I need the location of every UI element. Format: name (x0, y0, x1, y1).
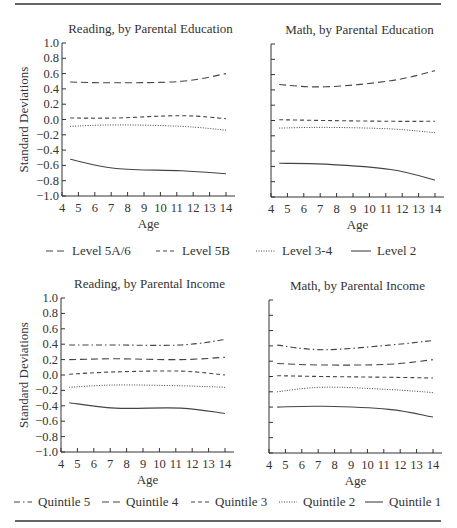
series-line-quintile-4 (277, 360, 433, 365)
y-tick-label: 0.2 (43, 97, 59, 111)
legend-label: Quintile 2 (303, 494, 355, 509)
legend-label: Level 5B (182, 243, 230, 258)
chart-title: Reading, by Parental Education (68, 21, 233, 36)
y-tick-label: 0.2 (42, 353, 58, 367)
x-tick-label: 9 (350, 202, 356, 216)
series-line-level-3-4 (279, 127, 435, 132)
y-tick-label: −0.6 (35, 414, 58, 428)
y-tick-label: −0.2 (36, 128, 59, 142)
y-tick-label: −0.4 (35, 399, 58, 413)
y-tick-label: −0.8 (36, 174, 59, 188)
x-tick-label: 9 (348, 458, 354, 472)
x-tick-label: 11 (170, 457, 182, 471)
x-tick-label: 14 (429, 202, 442, 216)
y-tick-label: 1.0 (43, 36, 59, 50)
x-axis-label: Age (345, 473, 367, 488)
legend-label: Level 2 (377, 243, 416, 258)
legend-label: Quintile 1 (389, 494, 441, 509)
x-tick-label: 6 (92, 201, 98, 215)
x-tick-label: 12 (394, 458, 407, 472)
x-tick-label: 8 (124, 201, 130, 215)
x-tick-label: 13 (202, 457, 215, 471)
y-tick-label: 0.6 (42, 322, 58, 336)
x-tick-label: 14 (427, 458, 440, 472)
y-tick-label: 0.8 (43, 51, 59, 65)
chart-title: Reading, by Parental Income (74, 276, 225, 291)
y-tick-label: 0.0 (42, 368, 58, 382)
x-tick-label: 11 (171, 201, 183, 215)
y-tick-label: 0.6 (43, 67, 59, 81)
x-tick-label: 5 (284, 202, 290, 216)
y-tick-label: 0.4 (43, 82, 59, 96)
legend-label: Level 5A/6 (72, 243, 131, 258)
x-tick-label: 7 (107, 457, 113, 471)
x-tick-label: 5 (74, 457, 80, 471)
y-tick-label: −1.0 (36, 189, 59, 203)
x-tick-label: 8 (333, 202, 339, 216)
x-tick-label: 14 (220, 201, 233, 215)
x-tick-label: 6 (91, 457, 97, 471)
chart-title: Math, by Parental Education (285, 22, 434, 37)
y-tick-label: −0.2 (35, 383, 58, 397)
x-tick-label: 6 (299, 458, 305, 472)
y-axis-label: Standard Deviations (16, 322, 31, 428)
x-axis-label: Age (138, 216, 160, 231)
x-tick-label: 14 (219, 457, 232, 471)
x-tick-label: 13 (410, 458, 423, 472)
panel-math-education: Math, by Parental Education4567891011121… (268, 22, 444, 232)
x-tick-label: 8 (123, 457, 129, 471)
series-line-level-5a-6 (70, 74, 226, 83)
legend-income: Quintile 5Quintile 4Quintile 3Quintile 2… (14, 494, 441, 509)
y-tick-label: 0.0 (43, 113, 59, 127)
y-tick-label: −0.6 (36, 158, 59, 172)
y-tick-label: −1.0 (35, 445, 58, 459)
x-tick-label: 7 (108, 201, 114, 215)
y-tick-label: −0.4 (36, 143, 59, 157)
legend-label: Quintile 5 (38, 494, 90, 509)
x-tick-label: 7 (317, 202, 323, 216)
series-line-quintile-2 (69, 385, 225, 387)
y-axis-label: Standard Deviations (16, 67, 31, 173)
x-axis-label: Age (347, 217, 369, 232)
series-line-quintile-3 (69, 371, 225, 375)
series-line-quintile-3 (277, 376, 433, 378)
series-line-level-5b (279, 120, 435, 122)
legend-label: Level 3-4 (282, 243, 333, 258)
series-line-quintile-5 (69, 340, 225, 346)
x-tick-label: 12 (187, 201, 200, 215)
x-tick-label: 4 (268, 202, 275, 216)
legend-label: Quintile 3 (215, 494, 267, 509)
y-tick-label: 0.8 (42, 306, 58, 320)
x-tick-label: 7 (315, 458, 321, 472)
y-tick-label: −0.8 (35, 430, 58, 444)
series-line-level-2 (70, 159, 226, 174)
y-tick-label: 0.4 (42, 337, 58, 351)
figure: Reading, by Parental Education1.00.80.60… (0, 0, 457, 528)
x-tick-label: 10 (153, 457, 166, 471)
legend-education: Level 5A/6Level 5BLevel 3-4Level 2 (46, 243, 416, 258)
x-tick-label: 10 (361, 458, 374, 472)
panel-reading-education: Reading, by Parental Education1.00.80.60… (16, 21, 235, 231)
series-line-level-2 (279, 163, 435, 180)
panel-math-income: Math, by Parental Income4567891011121314… (266, 278, 442, 488)
series-line-level-5b (70, 116, 226, 119)
x-tick-label: 11 (380, 202, 392, 216)
x-tick-label: 9 (140, 457, 146, 471)
series-line-quintile-1 (277, 406, 433, 417)
series-line-quintile-1 (69, 403, 225, 414)
x-tick-label: 5 (282, 458, 288, 472)
y-tick-label: 1.0 (42, 291, 58, 305)
series-line-level-5a-6 (279, 71, 435, 87)
series-line-quintile-2 (277, 387, 433, 392)
x-tick-label: 13 (412, 202, 425, 216)
x-tick-label: 9 (141, 201, 147, 215)
x-tick-label: 4 (59, 201, 66, 215)
legend-label: Quintile 4 (126, 494, 179, 509)
series-line-quintile-5 (277, 341, 433, 350)
x-axis-label: Age (137, 472, 159, 487)
x-tick-label: 10 (154, 201, 167, 215)
panel-reading-income: Reading, by Parental Income1.00.80.60.40… (16, 276, 234, 487)
x-tick-label: 4 (58, 457, 65, 471)
x-tick-label: 8 (331, 458, 337, 472)
x-tick-label: 12 (396, 202, 409, 216)
